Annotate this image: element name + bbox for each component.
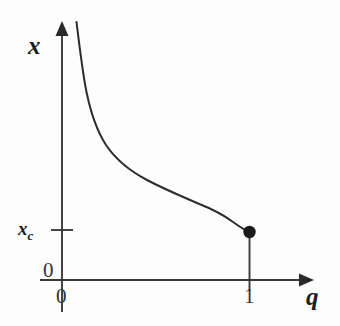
critical-point-marker (243, 226, 255, 238)
y-axis-tick-label-subscript: c (28, 228, 34, 243)
x-axis-tick-label-one: 1 (244, 286, 255, 307)
order-parameter-curve (77, 22, 250, 232)
x-axis-origin-label: 0 (56, 286, 67, 307)
y-axis-tick-label-base: x (18, 218, 28, 239)
y-axis-tick-label-xc: xc (18, 219, 33, 242)
x-axis-label: q (306, 284, 319, 309)
y-axis-label: x (28, 33, 41, 58)
figure-container: x q xc 0 0 1 (0, 0, 340, 326)
y-axis-origin-label: 0 (43, 260, 54, 281)
y-axis-arrow-icon (56, 21, 69, 36)
